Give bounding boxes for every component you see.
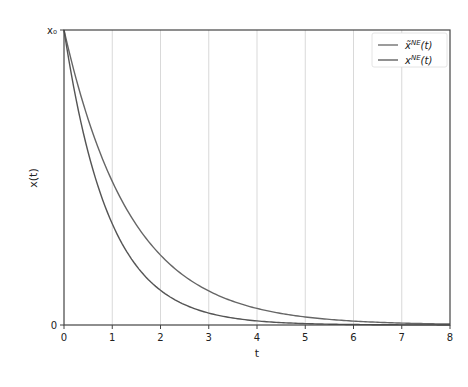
y-tick-label: x₀ — [47, 25, 57, 36]
x-tick-label: 8 — [447, 332, 453, 343]
x-tick-label: 3 — [206, 332, 212, 343]
x-tick-label: 2 — [157, 332, 163, 343]
y-axis-ticks: 0x₀ — [47, 25, 64, 331]
y-axis-label: x(t) — [27, 168, 40, 187]
x-tick-label: 0 — [61, 332, 67, 343]
x-axis-ticks: 012345678 — [61, 325, 453, 343]
x-tick-label: 5 — [302, 332, 308, 343]
x-tick-label: 1 — [109, 332, 115, 343]
legend: x̃NE(t) xNE(t) — [372, 33, 447, 67]
x-tick-label: 7 — [399, 332, 405, 343]
chart: 012345678 0x₀ t x(t) x̃NE(t) xNE(t) — [0, 0, 468, 387]
x-axis-label: t — [255, 347, 260, 360]
vertical-gridlines — [112, 30, 402, 325]
y-tick-label: 0 — [51, 320, 57, 331]
x-tick-label: 6 — [350, 332, 356, 343]
x-tick-label: 4 — [254, 332, 260, 343]
